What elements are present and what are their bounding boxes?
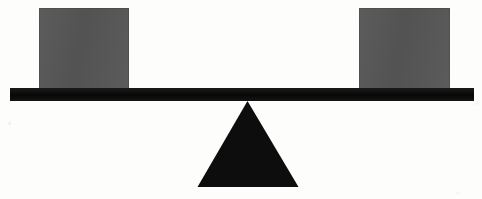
fulcrum-triangle — [190, 95, 306, 193]
block-right — [359, 8, 450, 89]
lever-diagram-canvas — [0, 0, 482, 199]
block-left — [39, 8, 129, 89]
fulcrum-triangle-shape — [198, 101, 299, 187]
